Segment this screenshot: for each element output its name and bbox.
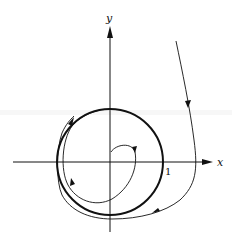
y-axis-label: y xyxy=(105,12,113,25)
x-axis-label: x xyxy=(217,156,224,169)
inner-spiral-trajectory xyxy=(63,110,136,203)
y-axis-arrow-icon xyxy=(107,26,113,38)
x-axis xyxy=(13,159,213,165)
outer-trajectory xyxy=(58,41,196,219)
x-axis-arrow-icon xyxy=(202,159,213,165)
phase-portrait-diagram: y x 1 xyxy=(0,0,232,239)
inner-spiral-arrow-icon xyxy=(132,146,137,153)
tick-label-one: 1 xyxy=(165,166,171,177)
outer-trajectory-arrow-icon xyxy=(185,100,191,108)
inner-spiral-arrow-icon-2 xyxy=(70,178,75,186)
